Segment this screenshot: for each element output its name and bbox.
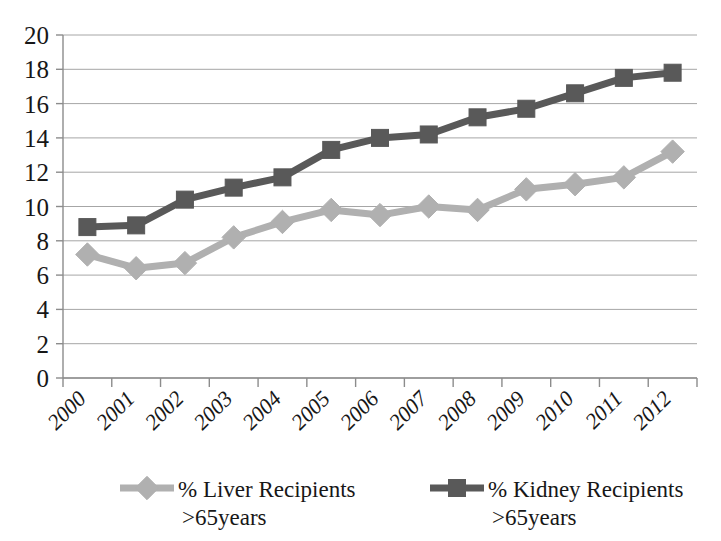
data-point-2002 [176, 191, 193, 208]
legend-label-line2: >65years [492, 505, 577, 530]
data-point-2005 [323, 141, 340, 158]
data-point-2006 [372, 129, 389, 146]
legend-label-line1: % Kidney Recipients [488, 477, 684, 502]
data-point-2003 [225, 179, 242, 196]
data-point-2000 [79, 219, 96, 236]
data-point-2011 [615, 69, 632, 86]
data-point-2008 [469, 109, 486, 126]
data-point-2012 [664, 64, 681, 81]
y-tick-label-14: 14 [24, 125, 50, 152]
y-tick-label-0: 0 [37, 365, 50, 392]
data-point-2007 [420, 126, 437, 143]
legend-label-line1: % Liver Recipients [178, 477, 356, 502]
y-tick-label-12: 12 [24, 159, 49, 186]
data-point-2010 [567, 85, 584, 102]
line-chart: 02468101214161820 2000200120022003200420… [0, 0, 721, 541]
y-tick-label-6: 6 [37, 262, 50, 289]
legend-label-line2: >65years [182, 505, 267, 530]
y-tick-label-4: 4 [37, 296, 50, 323]
data-point-2004 [274, 169, 291, 186]
y-tick-label-10: 10 [24, 194, 49, 221]
data-point-2009 [518, 100, 535, 117]
y-tick-label-20: 20 [24, 22, 49, 49]
y-tick-label-18: 18 [24, 56, 49, 83]
y-tick-label-2: 2 [37, 331, 50, 358]
data-point-2001 [128, 217, 145, 234]
y-tick-label-16: 16 [24, 91, 49, 118]
legend-swatch-marker [449, 480, 466, 497]
y-tick-label-8: 8 [37, 228, 50, 255]
chart-container: 02468101214161820 2000200120022003200420… [0, 0, 721, 541]
